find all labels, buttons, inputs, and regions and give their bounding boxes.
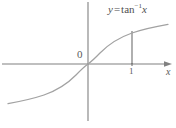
curve-equation-label: y=tan−1x xyxy=(108,3,147,15)
curve-label-argument: x xyxy=(142,3,147,15)
origin-label: 0 xyxy=(77,49,83,60)
curve-label-exponent: −1 xyxy=(135,2,142,10)
arctangent-figure: y=tan−1x 0 1 x xyxy=(0,0,176,128)
curve-label-function: tan xyxy=(121,3,134,15)
x-axis-label: x xyxy=(166,67,170,77)
tick-label-one: 1 xyxy=(129,67,134,76)
plot-canvas xyxy=(0,0,176,128)
curve-label-equals: = xyxy=(113,3,121,15)
